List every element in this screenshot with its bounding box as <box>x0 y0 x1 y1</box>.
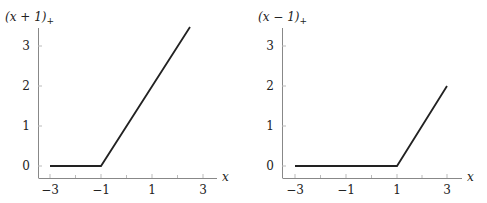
x-tick-label: −3 <box>41 183 59 197</box>
x-tick-label: −1 <box>337 183 355 197</box>
y-tick-label: 0 <box>266 159 274 173</box>
series-line-left <box>50 27 190 166</box>
x-ticks-left <box>50 174 203 178</box>
chart-right: (x − 1)+ 0 1 2 3 −3 −1 1 3 x <box>258 10 474 197</box>
x-tick-label: −3 <box>286 183 304 197</box>
y-tick-label: 2 <box>266 79 274 93</box>
chart-left: (x + 1)+ 0 1 2 3 −3 −1 1 3 x <box>5 10 229 197</box>
x-tick-label: 3 <box>443 183 451 197</box>
x-axis-title-right: x <box>467 170 474 184</box>
y-axis-title-left: (x + 1)+ <box>5 10 54 26</box>
x-tick-label: −1 <box>92 183 110 197</box>
y-axis-title-right: (x − 1)+ <box>258 10 307 26</box>
y-tick-label: 1 <box>22 119 30 133</box>
x-tick-label: 1 <box>393 183 401 197</box>
x-ticks-right <box>295 174 447 178</box>
series-line-right <box>295 86 447 166</box>
y-tick-label: 1 <box>266 119 274 133</box>
x-tick-label: 1 <box>148 183 156 197</box>
x-tick-label: 3 <box>199 183 207 197</box>
y-tick-label: 2 <box>22 79 30 93</box>
x-axis-title-left: x <box>222 170 229 184</box>
chart-canvas: (x + 1)+ 0 1 2 3 −3 −1 1 3 x <box>0 0 487 203</box>
y-tick-label: 3 <box>266 39 274 53</box>
y-tick-label: 3 <box>22 39 30 53</box>
y-tick-label: 0 <box>22 159 30 173</box>
